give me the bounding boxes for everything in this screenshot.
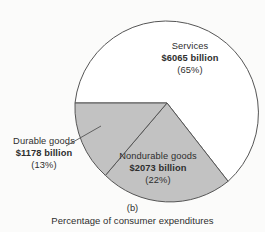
durable-percent: (13%) — [0, 160, 90, 172]
figure-caption-block: (b) Percentage of consumer expenditures — [0, 202, 265, 227]
slice-label-nondurable-goods: Nondurable goods $2073 billion (22%) — [104, 151, 212, 187]
durable-name: Durable goods — [0, 136, 90, 148]
services-percent: (65%) — [142, 65, 238, 77]
figure-caption-text: Percentage of consumer expenditures — [0, 215, 265, 227]
slice-label-durable-goods: Durable goods $1178 billion (13%) — [0, 136, 90, 172]
subfigure-letter: (b) — [0, 202, 265, 214]
pie-chart-figure: Services $6065 billion (65%) Nondurable … — [0, 0, 265, 232]
nondurable-amount: $2073 billion — [104, 163, 212, 175]
nondurable-percent: (22%) — [104, 175, 212, 187]
durable-amount: $1178 billion — [0, 148, 90, 160]
nondurable-name: Nondurable goods — [104, 151, 212, 163]
pie-chart-graphic — [0, 0, 265, 232]
slice-label-services: Services $6065 billion (65%) — [142, 41, 238, 77]
services-name: Services — [142, 41, 238, 53]
services-amount: $6065 billion — [142, 53, 238, 65]
